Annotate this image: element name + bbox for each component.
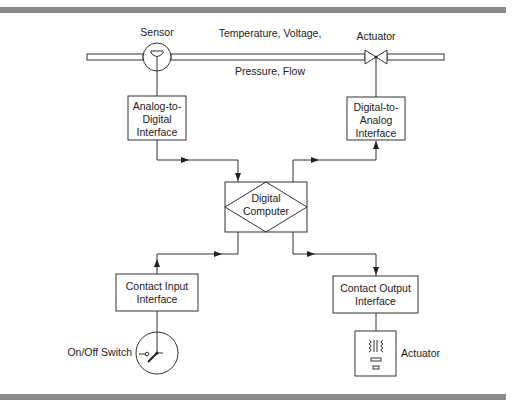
svg-text:Interface: Interface bbox=[137, 126, 178, 138]
computer-to-dac-connector bbox=[293, 141, 379, 182]
svg-text:Contact Input: Contact Input bbox=[126, 280, 189, 292]
svg-text:Analog: Analog bbox=[360, 114, 393, 126]
process-label-bottom: Pressure, Flow bbox=[235, 65, 305, 77]
dac-interface-box: Digital-to- Analog Interface bbox=[347, 97, 405, 140]
process-control-diagram: Sensor Temperature, Voltage, Pressure, F… bbox=[0, 0, 524, 406]
relay-actuator-icon bbox=[355, 331, 396, 376]
process-pipe bbox=[87, 54, 444, 60]
svg-text:Computer: Computer bbox=[243, 205, 290, 217]
svg-text:Interface: Interface bbox=[355, 295, 396, 307]
contact-output-interface-box: Contact Output Interface bbox=[333, 276, 418, 313]
process-label-top: Temperature, Voltage, bbox=[219, 27, 322, 39]
output-actuator-label: Actuator bbox=[401, 347, 441, 359]
svg-text:Contact Output: Contact Output bbox=[340, 282, 411, 294]
svg-text:Analog-to-: Analog-to- bbox=[133, 100, 182, 112]
adc-interface-box: Analog-to- Digital Interface bbox=[128, 96, 186, 140]
sensor-label: Sensor bbox=[140, 26, 174, 38]
computer-to-output-connector bbox=[293, 232, 379, 276]
sensor-icon bbox=[143, 43, 171, 71]
svg-text:Digital: Digital bbox=[251, 192, 280, 204]
svg-text:Digital: Digital bbox=[142, 113, 171, 125]
svg-text:Interface: Interface bbox=[137, 293, 178, 305]
adc-to-computer-connector bbox=[157, 140, 241, 182]
svg-text:Interface: Interface bbox=[356, 127, 397, 139]
svg-text:Digital-to-: Digital-to- bbox=[354, 101, 399, 113]
switch-label: On/Off Switch bbox=[67, 346, 132, 358]
digital-computer-box: Digital Computer bbox=[225, 182, 307, 232]
input-to-computer-connector bbox=[154, 232, 238, 274]
valve-actuator-label: Actuator bbox=[356, 30, 396, 42]
switch-icon bbox=[136, 332, 178, 374]
contact-input-interface-box: Contact Input Interface bbox=[116, 274, 198, 311]
